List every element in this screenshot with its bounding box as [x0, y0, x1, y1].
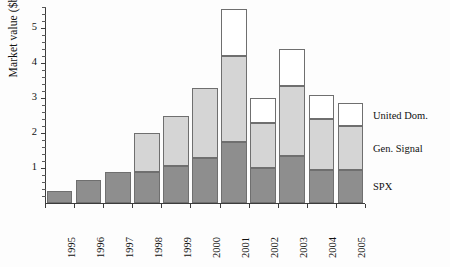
- bar-segment-spx-1999: [163, 166, 189, 203]
- y-tick-minor: [42, 7, 46, 8]
- bar-segment-gen-signal-2000: [192, 88, 218, 158]
- y-tick-minor: [42, 21, 46, 22]
- bar-2002: [250, 98, 276, 203]
- y-tick-minor: [42, 154, 46, 155]
- bar-segment-spx-2000: [192, 158, 218, 204]
- plot-area: 12345 1995199619971998199920002001200220…: [45, 8, 365, 204]
- y-tick-minor: [42, 189, 46, 190]
- y-tick-minor: [42, 175, 46, 176]
- bar-segment-gen-signal-1998: [134, 133, 160, 172]
- bar-segment-spx-1998: [134, 172, 160, 204]
- x-tick: [103, 204, 104, 208]
- bar-2005: [338, 103, 364, 203]
- legend-label-united-dom: United Dom.: [373, 110, 428, 122]
- y-tick-minor: [42, 182, 46, 183]
- x-tick-label-1998: 1998: [152, 202, 166, 258]
- stacked-bar-chart: Market value ($b) 12345 1995199619971998…: [0, 0, 450, 267]
- bar-segment-united-dom-2001: [221, 9, 247, 56]
- bar-segment-spx-1996: [76, 180, 102, 203]
- x-tick: [365, 204, 366, 208]
- x-tick-label-2000: 2000: [210, 202, 224, 258]
- bar-segment-united-dom-2002: [250, 98, 276, 123]
- x-tick-label-2002: 2002: [268, 202, 282, 258]
- bar-segment-spx-2003: [279, 156, 305, 203]
- x-tick: [307, 204, 308, 208]
- y-tick-major: 2: [41, 133, 46, 134]
- y-tick-major: 5: [41, 28, 46, 29]
- y-tick-minor: [42, 14, 46, 15]
- bar-1999: [163, 116, 189, 204]
- x-tick: [220, 204, 221, 208]
- bar-segment-spx-2001: [221, 142, 247, 203]
- y-tick-major: 1: [41, 168, 46, 169]
- y-tick-minor: [42, 161, 46, 162]
- legend-label-gen-signal: Gen. Signal: [373, 143, 423, 155]
- bar-segment-united-dom-2003: [279, 49, 305, 86]
- x-axis-line: [45, 203, 365, 204]
- bar-2000: [192, 88, 218, 204]
- bar-segment-spx-1997: [105, 172, 131, 204]
- x-tick: [161, 204, 162, 208]
- y-tick-minor: [42, 105, 46, 106]
- y-tick-minor: [42, 147, 46, 148]
- bar-segment-gen-signal-2003: [279, 86, 305, 156]
- x-tick-label-1996: 1996: [94, 202, 108, 258]
- bar-segment-gen-signal-2001: [221, 56, 247, 142]
- y-tick-minor: [42, 119, 46, 120]
- bar-segment-gen-signal-2002: [250, 123, 276, 169]
- bar-1996: [76, 180, 102, 203]
- y-tick-label: 3: [17, 91, 37, 103]
- y-tick-minor: [42, 196, 46, 197]
- x-tick-label-2003: 2003: [297, 202, 311, 258]
- x-tick-label-1999: 1999: [181, 202, 195, 258]
- x-tick: [278, 204, 279, 208]
- x-tick: [190, 204, 191, 208]
- y-tick-minor: [42, 42, 46, 43]
- x-tick: [45, 204, 46, 208]
- x-tick: [249, 204, 250, 208]
- y-tick-minor: [42, 84, 46, 85]
- bar-2001: [221, 9, 247, 203]
- y-tick-label: 5: [17, 21, 37, 33]
- bar-segment-spx-2004: [309, 170, 335, 203]
- y-tick-major: 3: [41, 98, 46, 99]
- bar-1997: [105, 172, 131, 204]
- y-tick-label: 4: [17, 56, 37, 68]
- bar-segment-gen-signal-1999: [163, 116, 189, 167]
- bar-segment-spx-2002: [250, 168, 276, 203]
- y-tick-major: 4: [41, 63, 46, 64]
- y-tick-minor: [42, 112, 46, 113]
- y-tick-minor: [42, 49, 46, 50]
- y-tick-minor: [42, 70, 46, 71]
- y-tick-label: 1: [17, 161, 37, 173]
- x-tick-label-1995: 1995: [65, 202, 79, 258]
- bar-segment-united-dom-2004: [309, 95, 335, 120]
- y-tick-minor: [42, 77, 46, 78]
- bar-2004: [309, 95, 335, 204]
- y-tick-minor: [42, 56, 46, 57]
- bar-1998: [134, 133, 160, 203]
- x-tick-label-2004: 2004: [326, 202, 340, 258]
- y-tick-minor: [42, 91, 46, 92]
- bar-segment-gen-signal-2004: [309, 119, 335, 170]
- bar-segment-gen-signal-2005: [338, 126, 364, 170]
- x-tick-label-1997: 1997: [123, 202, 137, 258]
- bar-segment-united-dom-2005: [338, 103, 364, 126]
- x-tick-label-2005: 2005: [355, 202, 369, 258]
- x-tick: [336, 204, 337, 208]
- y-tick-label: 2: [17, 126, 37, 138]
- bar-2003: [279, 49, 305, 203]
- y-tick-minor: [42, 35, 46, 36]
- x-tick-label-2001: 2001: [239, 202, 253, 258]
- x-tick: [74, 204, 75, 208]
- bar-segment-spx-2005: [338, 170, 364, 203]
- legend-label-spx: SPX: [373, 181, 392, 193]
- y-tick-minor: [42, 140, 46, 141]
- y-tick-minor: [42, 126, 46, 127]
- x-tick: [132, 204, 133, 208]
